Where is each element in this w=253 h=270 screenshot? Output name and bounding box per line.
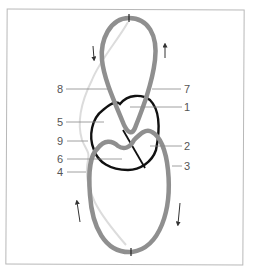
arrow-upper-left-icon [93, 46, 94, 59]
label-9: 9 [57, 136, 63, 147]
label-7: 7 [184, 84, 190, 95]
label-2: 2 [184, 141, 190, 152]
outer-loop [102, 18, 156, 132]
label-1: 1 [184, 102, 190, 113]
label-3: 3 [184, 161, 190, 172]
label-6: 6 [57, 154, 63, 165]
arrow-lower-right-icon [178, 203, 180, 224]
arrow-lower-left-icon [77, 202, 80, 222]
label-4: 4 [57, 167, 63, 178]
loop-diagram [0, 0, 253, 270]
label-8: 8 [57, 84, 63, 95]
label-5: 5 [57, 117, 63, 128]
